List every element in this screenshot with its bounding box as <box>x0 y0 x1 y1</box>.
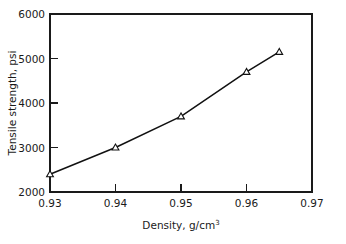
x-axis-title: Density, g/cm3 <box>142 219 219 231</box>
x-axis-tick-labels: 0.93 0.94 0.95 0.96 0.97 <box>38 197 323 209</box>
tensile-strength-vs-density-chart: 2000 3000 4000 5000 6000 0.93 0.94 0.95 … <box>0 0 346 244</box>
x-axis-title-text: Density, g/cm <box>142 219 215 231</box>
y-axis-tick-labels: 2000 3000 4000 5000 6000 <box>18 8 45 198</box>
x-axis-title-superscript: 3 <box>215 219 219 227</box>
plot-background <box>50 14 312 192</box>
y-axis-title: Tensile strength, psi <box>6 51 18 157</box>
y-tick-label-6000: 6000 <box>18 8 45 20</box>
x-tick-label-097: 0.97 <box>300 197 323 209</box>
x-tick-label-095: 0.95 <box>169 197 192 209</box>
y-axis-title-text: Tensile strength, psi <box>6 51 18 157</box>
y-tick-label-4000: 4000 <box>18 97 45 109</box>
chart-figure: 2000 3000 4000 5000 6000 0.93 0.94 0.95 … <box>0 0 346 244</box>
svg-text:Density, g/cm3: Density, g/cm3 <box>142 219 219 231</box>
y-tick-label-5000: 5000 <box>18 53 45 65</box>
y-tick-label-3000: 3000 <box>18 142 45 154</box>
x-tick-label-093: 0.93 <box>38 197 61 209</box>
x-tick-label-096: 0.96 <box>235 197 259 209</box>
x-tick-label-094: 0.94 <box>104 197 128 209</box>
